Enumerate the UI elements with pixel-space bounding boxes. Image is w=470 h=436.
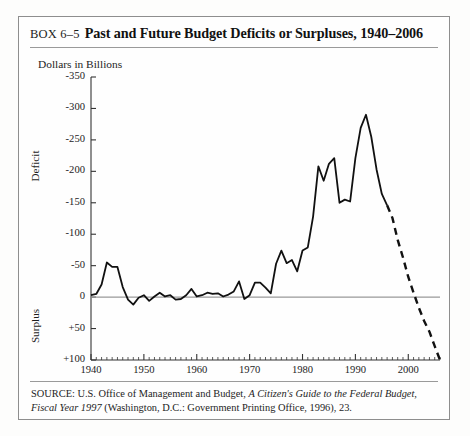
figure-page: BOX 6–5Past and Future Budget Deficits o…: [0, 0, 470, 436]
y-tick-label: -250: [45, 133, 85, 144]
x-tick-label: 1990: [335, 364, 375, 375]
source-note: SOURCE: U.S. Office of Management and Bu…: [31, 387, 435, 414]
y-tick-label: -100: [45, 227, 85, 238]
x-tick-label: 1970: [230, 364, 270, 375]
y-tick-label: -300: [45, 101, 85, 112]
projected-line: [387, 205, 440, 360]
surplus-region-label: Surplus: [29, 296, 41, 356]
source-italic1: A Citizen's Guide to the Federal Budget,: [248, 388, 417, 399]
source-label: SOURCE:: [31, 388, 75, 399]
source-italic2: Fiscal Year 1997: [31, 402, 102, 413]
source-part2: (Washington, D.C.: Government Printing O…: [102, 402, 352, 413]
y-tick-label: +100: [45, 353, 85, 364]
source-part1: U.S. Office of Management and Budget,: [75, 388, 249, 399]
x-tick-label: 1950: [124, 364, 164, 375]
deficit-region-label: Deficit: [29, 136, 41, 196]
x-tick-label: 1940: [71, 364, 111, 375]
y-tick-label: 0: [45, 290, 85, 301]
x-tick-label: 1960: [177, 364, 217, 375]
x-tick-label: 1980: [283, 364, 323, 375]
source-divider: [30, 381, 438, 382]
y-tick-label: -350: [45, 70, 85, 81]
y-tick-label: -50: [45, 259, 85, 270]
actual-line: [91, 115, 387, 305]
y-tick-label: -150: [45, 196, 85, 207]
y-tick-label: +50: [45, 322, 85, 333]
x-tick-label: 2000: [388, 364, 428, 375]
y-tick-label: -200: [45, 164, 85, 175]
